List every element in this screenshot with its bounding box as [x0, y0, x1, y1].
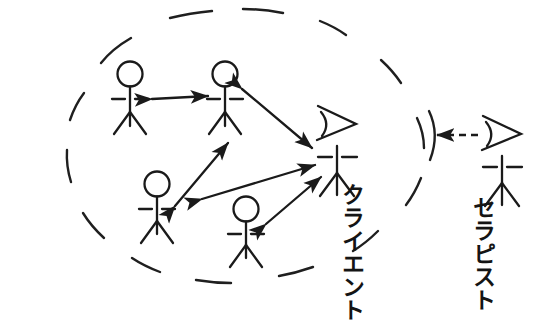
stick-figure-therapist: [482, 116, 522, 206]
group-boundary-arc-target: [429, 111, 435, 160]
diagram-canvas: クライエント セラピスト: [0, 0, 535, 333]
relationship-arrows: [152, 89, 321, 224]
stick-figure-relationship-diagram: [0, 0, 535, 333]
arrow-lowerleft-topcenter: [175, 143, 228, 206]
stick-figure-member-top-left: [112, 62, 148, 135]
arrow-lowercenter-client: [266, 177, 321, 224]
arrow-lowerleft-client: [202, 165, 315, 199]
arrow-topleft-topcenter: [152, 96, 208, 99]
arrow-topcenter-client: [242, 89, 312, 148]
stick-figure-member-top-center: [207, 62, 243, 135]
therapist-label: セラピスト: [471, 196, 494, 311]
stick-figure-member-lower-left: [139, 172, 175, 244]
client-label: クライエント: [340, 183, 363, 321]
stick-figure-member-lower-center: [228, 197, 264, 268]
